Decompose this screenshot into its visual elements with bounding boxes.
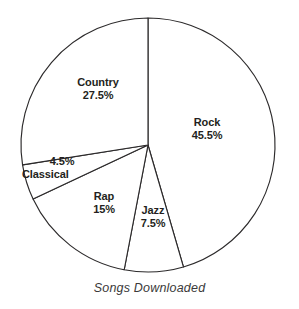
pie-slices	[21, 18, 275, 272]
pie-label-jazz-name: Jazz	[126, 204, 180, 217]
pie-label-jazz: Jazz 7.5%	[126, 204, 180, 230]
pie-label-rap-value: 15%	[74, 203, 134, 216]
pie-label-classical-name: Classical	[22, 168, 90, 181]
pie-label-country: Country 27.5%	[60, 76, 136, 102]
pie-label-rock-value: 45.5%	[176, 129, 238, 142]
pie-label-rap: Rap 15%	[74, 190, 134, 216]
pie-label-country-name: Country	[60, 76, 136, 89]
pie-label-country-value: 27.5%	[60, 89, 136, 102]
pie-chart: Rock 45.5% Country 27.5% 4.5% Classical …	[0, 0, 299, 309]
chart-caption: Songs Downloaded	[0, 281, 299, 295]
pie-label-classical: 4.5% Classical	[22, 155, 90, 181]
pie-label-rap-name: Rap	[74, 190, 134, 203]
pie-label-jazz-value: 7.5%	[126, 217, 180, 230]
pie-label-rock-name: Rock	[176, 116, 238, 129]
pie-label-rock: Rock 45.5%	[176, 116, 238, 142]
pie-label-classical-value: 4.5%	[22, 155, 90, 168]
